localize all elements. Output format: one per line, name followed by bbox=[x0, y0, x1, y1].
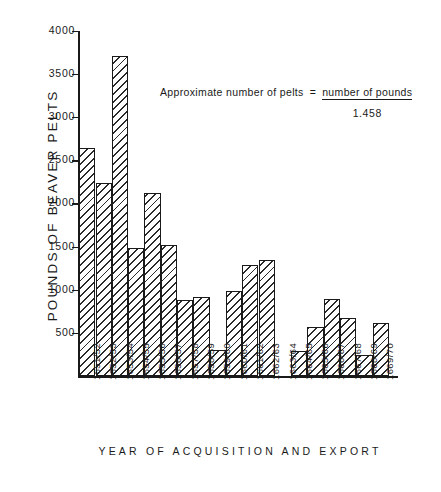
x-tick-label: 1664/65 bbox=[303, 343, 314, 380]
x-axis-title: YEAR OF ACQUISITION AND EXPORT bbox=[60, 445, 420, 457]
x-tick-label: 1663/64 bbox=[287, 343, 298, 380]
x-tick-label: 1656/57 bbox=[172, 343, 183, 380]
bar bbox=[112, 56, 128, 376]
y-tick-label: 4000 bbox=[49, 24, 75, 36]
pelts-conversion-annotation: Approximate number of pelts = number of … bbox=[160, 86, 412, 119]
x-tick-label: 1659/60 bbox=[221, 343, 232, 380]
x-tick-label: 1652/53 bbox=[107, 343, 118, 380]
beaver-pelts-bar-chart: POUNDS OF BEAVER PELTS 50010001500200025… bbox=[0, 0, 441, 492]
x-tick-label: 1653/54 bbox=[124, 343, 135, 380]
annotation-fraction: number of pounds 1.458 bbox=[322, 86, 412, 119]
x-tick-label: 1661/62 bbox=[254, 343, 265, 380]
annotation-denominator: 1.458 bbox=[322, 100, 412, 119]
x-tick-label: 1668/69 bbox=[368, 343, 379, 380]
x-tick-label: 1662/63 bbox=[270, 343, 281, 380]
x-tick-label: 1666/67 bbox=[335, 343, 346, 380]
x-tick-label: 1658/59 bbox=[205, 343, 216, 380]
y-tick-label: 3500 bbox=[49, 67, 75, 79]
x-tick-label: 1654/55 bbox=[140, 343, 151, 380]
annotation-left-side: Approximate number of pelts bbox=[160, 86, 304, 98]
y-tick-label: 2500 bbox=[49, 153, 75, 165]
y-tick-label: 3000 bbox=[49, 110, 75, 122]
x-tick-label: 1657/58 bbox=[189, 343, 200, 380]
x-tick-label: 1667/68 bbox=[352, 343, 363, 380]
x-tick-label: 1655/56 bbox=[156, 343, 167, 380]
y-tick-label: 500 bbox=[55, 326, 75, 338]
x-tick-label: 1669/70 bbox=[384, 343, 395, 380]
annotation-equals-sign: = bbox=[304, 86, 322, 98]
x-tick-label: 1660/61 bbox=[238, 343, 249, 380]
y-tick-label: 1000 bbox=[49, 283, 75, 295]
y-tick-label: 2000 bbox=[49, 196, 75, 208]
plot-area: 5001000150020002500300035004000 1651/521… bbox=[78, 28, 398, 377]
bar-series bbox=[78, 28, 398, 377]
annotation-numerator: number of pounds bbox=[322, 86, 412, 100]
y-tick-label: 1500 bbox=[49, 240, 75, 252]
x-tick-label: 1665/66 bbox=[319, 343, 330, 380]
x-tick-label: 1651/52 bbox=[91, 343, 102, 380]
